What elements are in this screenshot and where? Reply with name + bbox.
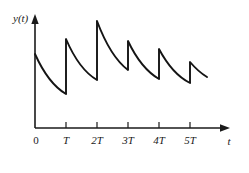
waveform-figure: 0 T 2T 3T 4T 5T y(t) t	[0, 0, 249, 173]
x-tick-label-3T: 3T	[121, 134, 135, 146]
x-tick-label-2T: 2T	[91, 134, 104, 146]
y-axis-arrow-icon	[31, 14, 38, 24]
curve-segment-2	[97, 21, 128, 70]
curve-segment-1	[66, 39, 97, 80]
x-tick-label-4T: 4T	[153, 134, 166, 146]
x-tick-label-0: 0	[33, 134, 39, 146]
x-axis-label: t	[227, 135, 231, 147]
waveform-curve	[35, 21, 207, 94]
x-tick-label-5T: 5T	[184, 134, 197, 146]
curve-segment-0	[35, 54, 66, 94]
decaying-sawtooth-chart: 0 T 2T 3T 4T 5T y(t) t	[0, 0, 249, 173]
x-axis	[35, 124, 230, 131]
x-tick-label-T: T	[63, 134, 70, 146]
curve-segment-3	[128, 41, 159, 79]
y-axis	[31, 14, 38, 128]
y-axis-label: y(t)	[12, 12, 29, 25]
curve-segment-5	[190, 62, 207, 77]
x-axis-arrow-icon	[220, 124, 230, 131]
x-axis-ticks	[66, 122, 190, 128]
curve-segment-4	[159, 49, 190, 83]
